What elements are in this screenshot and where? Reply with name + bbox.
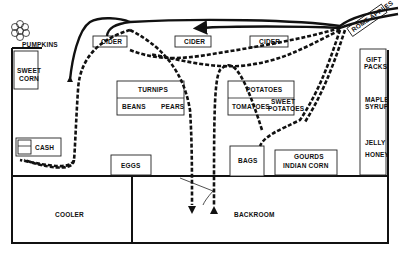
sweet-potatoes-label-2: POTATOES: [268, 105, 305, 112]
cooler-label: COOLER: [55, 211, 84, 218]
gift-packs-label: GIFT: [366, 56, 382, 63]
honey-label: HONEY: [365, 151, 390, 158]
potatoes-label: POTATOES: [246, 86, 283, 93]
bags-label: BAGS: [238, 157, 258, 164]
sweet-corn-label: SWEET: [17, 67, 41, 74]
turnips-label: TURNIPS: [138, 86, 168, 93]
maple-syrup-label: MAPLE: [365, 96, 389, 103]
cider-label-1: CIDER: [101, 38, 122, 45]
sweet-potatoes-label: SWEET: [271, 98, 295, 105]
cider-label-2: CIDER: [184, 38, 205, 45]
backroom-door: [180, 178, 213, 205]
beans-label: BEANS: [122, 103, 146, 110]
sweet-corn-label-2: CORN: [19, 75, 39, 82]
jelly-label: JELLY: [365, 139, 386, 146]
eggs-label: EGGS: [121, 162, 141, 169]
traffic-paths-dashed: [20, 28, 345, 205]
pears-label: PEARS: [161, 103, 185, 110]
gourds-label: GOURDS: [294, 153, 324, 160]
tomatoes-label: TOMATOES: [232, 103, 270, 110]
pumpkins-label: PUMPKINS: [22, 41, 58, 48]
indian-corn-label: INDIAN CORN: [283, 162, 329, 169]
pumpkins-icon: [12, 21, 30, 41]
floor-plan: PUMPKINS SWEET CORN CASH CIDER CIDER CID…: [0, 0, 402, 257]
register-icon: [18, 140, 31, 154]
gift-packs-label-2: PACKS: [364, 63, 388, 70]
cash-label: CASH: [35, 144, 54, 151]
backroom-label: BACKROOM: [234, 211, 275, 218]
maple-syrup-label-2: SYRUP: [365, 103, 389, 110]
